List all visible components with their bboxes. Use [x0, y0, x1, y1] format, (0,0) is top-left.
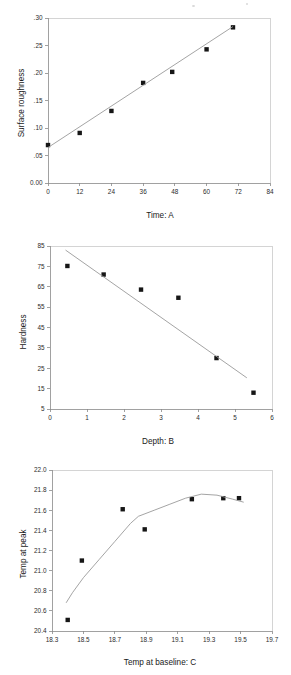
data-point-marker [139, 287, 143, 291]
y-tick-label: .05 [34, 152, 43, 159]
y-tick-label: .15 [34, 97, 43, 104]
y-tick-label: 20.8 [34, 587, 47, 594]
x-tick-label: 36 [140, 188, 148, 195]
y-tick-label: .10 [34, 124, 43, 131]
x-tick-label: 84 [266, 188, 274, 195]
y-tick-label: 25 [37, 365, 45, 372]
x-tick-label: 18.5 [77, 636, 90, 643]
y-tick-label: 75 [37, 263, 45, 270]
figure-page: 0122436486072840.00.05.10.15.20.25.30 Ti… [0, 0, 291, 675]
data-point-marker [204, 47, 208, 51]
data-point-marker [170, 70, 174, 74]
y-tick-label: 21.8 [34, 486, 47, 493]
data-point-marker [66, 618, 70, 622]
chart-panel-temp-at-peak: 18.318.518.718.919.119.319.519.720.420.6… [0, 454, 291, 675]
data-point-marker [237, 496, 241, 500]
x-tick-label: 19.3 [203, 636, 216, 643]
y-tick-label: 65 [37, 283, 45, 290]
data-point-marker [143, 527, 147, 531]
y-tick-label: 20.6 [34, 607, 47, 614]
data-point-marker [80, 558, 84, 562]
y-tick-label: 45 [37, 324, 45, 331]
x-tick-label: 1 [85, 414, 89, 421]
x-axis-title: Depth: B [142, 437, 174, 446]
x-axis-title: Temp at baseline: C [124, 658, 196, 667]
chart-panel-hardness: 012345651525354555657585 Depth: B Hardne… [0, 228, 291, 454]
x-tick-label: 19.1 [171, 636, 184, 643]
x-tick-label: 19.7 [266, 636, 279, 643]
y-tick-label: 0.00 [30, 179, 43, 186]
data-point-marker [190, 497, 194, 501]
fit-line [66, 250, 247, 378]
data-point-marker [78, 131, 82, 135]
y-tick-label: 85 [37, 242, 45, 249]
x-tick-label: 2 [122, 414, 126, 421]
x-tick-label: 0 [46, 188, 50, 195]
x-tick-label: 72 [235, 188, 243, 195]
chart-surface-roughness-vs-time: 0122436486072840.00.05.10.15.20.25.30 Ti… [0, 0, 291, 228]
chart-temp-at-peak-vs-baseline: 18.318.518.718.919.119.319.519.720.420.6… [0, 454, 291, 675]
y-tick-label: 35 [37, 344, 45, 351]
x-tick-label: 4 [196, 414, 200, 421]
x-tick-label: 18.7 [109, 636, 122, 643]
y-axis-title: Surface roughness [17, 69, 26, 138]
y-tick-label: 21.6 [34, 507, 47, 514]
y-tick-label: 15 [37, 385, 45, 392]
data-point-marker [121, 507, 125, 511]
x-tick-label: 6 [270, 414, 274, 421]
fit-line [66, 494, 244, 603]
x-tick-label: 18.3 [46, 636, 59, 643]
y-tick-label: 21.4 [34, 527, 47, 534]
chart-panel-surface-roughness: 0122436486072840.00.05.10.15.20.25.30 Ti… [0, 0, 291, 228]
y-tick-label: 5 [41, 405, 45, 412]
y-tick-label: .20 [34, 69, 43, 76]
y-axis-title: Temp at peak [19, 529, 28, 579]
x-tick-label: 24 [108, 188, 116, 195]
y-tick-label: 22.0 [34, 466, 47, 473]
y-axis-title: Hardness [19, 314, 28, 349]
data-point-marker [65, 264, 69, 268]
x-tick-label: 0 [48, 414, 52, 421]
fit-line [48, 27, 233, 148]
x-tick-label: 12 [76, 188, 84, 195]
data-point-marker [176, 296, 180, 300]
y-tick-label: .25 [34, 42, 43, 49]
data-point-marker [109, 109, 113, 113]
x-tick-label: 3 [159, 414, 163, 421]
x-tick-label: 19.5 [234, 636, 247, 643]
data-point-marker [251, 391, 255, 395]
x-axis-title: Time: A [146, 211, 174, 220]
chart-hardness-vs-depth: 012345651525354555657585 Depth: B Hardne… [0, 228, 291, 454]
y-tick-label: 20.4 [34, 627, 47, 634]
x-tick-label: 60 [203, 188, 211, 195]
y-tick-label: 21.0 [34, 567, 47, 574]
y-tick-label: .30 [34, 14, 43, 21]
y-tick-label: 55 [37, 303, 45, 310]
x-tick-label: 18.9 [140, 636, 153, 643]
y-tick-label: 21.2 [34, 547, 47, 554]
x-tick-label: 48 [171, 188, 179, 195]
x-tick-label: 5 [233, 414, 237, 421]
